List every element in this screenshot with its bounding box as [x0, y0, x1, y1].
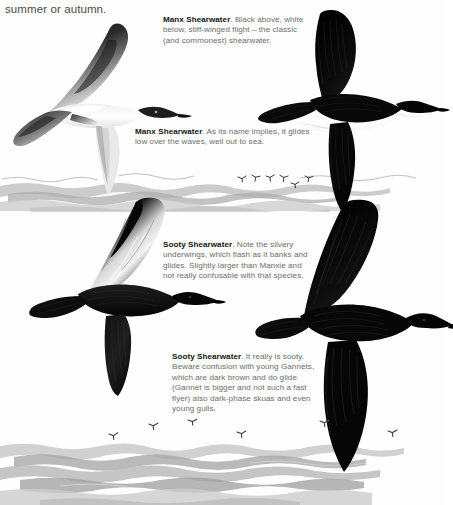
caption-sooty-lower: Sooty Shearwater. It really is sooty. Be… — [172, 352, 324, 414]
distant-shearwater-flock-upper — [235, 172, 320, 194]
species-name-label: Sooty Shearwater — [163, 240, 232, 249]
distant-shearwater-flock-lower — [105, 418, 435, 452]
caption-sooty-upper: Sooty Shearwater. Note the silvery under… — [163, 240, 313, 282]
caption-body-text: . It really is sooty. Beware confusion w… — [172, 352, 314, 413]
species-name-label: Manx Shearwater — [163, 15, 230, 24]
caption-manx-upper: Manx Shearwater. Black above, white belo… — [163, 15, 311, 46]
caption-manx-lower: Manx Shearwater. As its name implies, it… — [135, 127, 310, 148]
species-name-label: Sooty Shearwater — [172, 352, 241, 361]
species-name-label: Manx Shearwater — [135, 127, 202, 136]
